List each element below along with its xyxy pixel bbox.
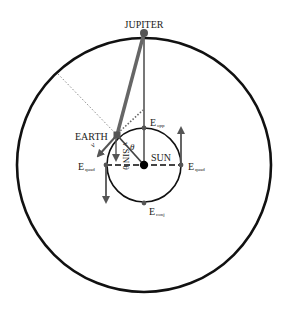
jupiter-earth-line [117, 33, 144, 135]
jupiter-label: JUPITER [125, 19, 164, 30]
e-quad-right-label: Equad [188, 161, 205, 172]
e-quad-right-main: E [188, 161, 194, 172]
dotted-sightline [58, 74, 116, 134]
e-quad-left-label: Equad [78, 161, 95, 172]
e-quad-left-sub: quad [85, 167, 95, 172]
e-opp-sub: opp [157, 123, 165, 128]
e-quad-left-point [104, 163, 109, 168]
orbit-diagram: JUPITER EARTH SUN Eopp Equad Equad Econj… [0, 0, 287, 317]
e-opp-label: Eopp [150, 117, 165, 128]
earth-point [114, 132, 121, 139]
diagram-canvas: JUPITER EARTH SUN Eopp Equad Equad Econj… [0, 0, 287, 317]
sun-label: SUN [151, 152, 171, 163]
e-conj-main: E [149, 206, 155, 217]
earth-label: EARTH [75, 131, 108, 142]
sun-point [140, 161, 148, 169]
e-opp-main: E [150, 117, 156, 128]
e-opp-point [142, 126, 147, 131]
e-quad-right-sub: quad [195, 167, 205, 172]
v-sin-theta-label: v SIN θ [121, 142, 131, 170]
e-conj-sub: conj [156, 212, 165, 217]
jupiter-point [140, 29, 148, 37]
e-quad-right-point [179, 163, 184, 168]
e-quad-left-main: E [78, 161, 84, 172]
e-conj-label: Econj [149, 206, 165, 217]
e-conj-point [142, 201, 147, 206]
